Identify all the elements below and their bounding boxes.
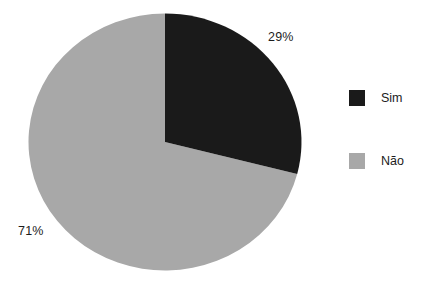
data-label-nao-percent: 71% xyxy=(18,225,44,238)
legend-item-sim[interactable]: Sim xyxy=(349,90,427,106)
legend-swatch-sim-icon xyxy=(349,90,365,106)
data-label-sim-percent: 29% xyxy=(268,31,294,44)
legend-label-sim: Sim xyxy=(381,92,403,105)
legend-label-nao: Não xyxy=(381,155,404,168)
legend-swatch-nao-icon xyxy=(349,153,365,169)
pie-chart-figure: 29% 71% Sim Não xyxy=(0,0,427,281)
legend-item-nao[interactable]: Não xyxy=(349,153,427,169)
chart-legend: Sim Não xyxy=(349,90,427,169)
